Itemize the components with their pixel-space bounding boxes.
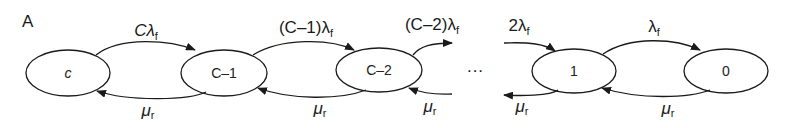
rate-label-c-minus-1-to-c-minus-2: (C–1)λf	[279, 18, 334, 39]
arrow-c-minus-2-to-ellipsis	[413, 43, 452, 55]
node-c-minus-1: C–1	[181, 50, 267, 96]
ellipsis: ···	[467, 61, 484, 80]
arrow-c-minus-2-to-c-minus-1	[258, 88, 366, 97]
node-label: C–2	[366, 62, 392, 78]
arrow-c-to-c-minus-1	[96, 42, 195, 55]
arrow-c-minus-1-to-c	[97, 91, 206, 99]
rate-label-1-to-0: λf	[648, 17, 661, 38]
rate-label-c-minus-1-to-c: μr	[141, 101, 155, 121]
rate-label-1-to-ellipsis: μr	[515, 97, 529, 117]
node-0: 0	[684, 49, 768, 93]
node-label: c	[65, 65, 72, 81]
node-c-minus-2: C–2	[336, 48, 422, 92]
state-transition-diagram: A c C–1 C–2 1 0 ··· Cλf (C–1)λf (C–2)λf …	[0, 0, 789, 128]
node-label: C–1	[211, 65, 237, 81]
node-c: c	[26, 50, 110, 96]
node-label: 0	[722, 63, 730, 79]
panel-label: A	[22, 12, 34, 31]
rate-label-ellipsis-to-c-minus-2: μr	[423, 97, 437, 117]
node-1: 1	[532, 49, 616, 93]
rate-label-ellipsis-to-1: 2λf	[508, 16, 530, 37]
arrow-ellipsis-to-c-minus-2	[409, 88, 452, 94]
arrow-0-to-1	[602, 88, 710, 97]
rate-label-c-minus-2-to-ellipsis: (C–2)λf	[405, 15, 460, 36]
rate-label-c-to-c-minus-1: Cλf	[134, 21, 159, 42]
rate-label-c-minus-2-to-c-minus-1: μr	[313, 99, 327, 119]
arrow-c-minus-1-to-c-minus-2	[253, 42, 354, 55]
arrow-1-to-0	[603, 41, 700, 54]
node-label: 1	[570, 63, 578, 79]
arrow-ellipsis-to-1	[504, 43, 555, 51]
arrow-1-to-ellipsis	[504, 90, 558, 95]
rate-label-0-to-1: μr	[661, 99, 675, 119]
